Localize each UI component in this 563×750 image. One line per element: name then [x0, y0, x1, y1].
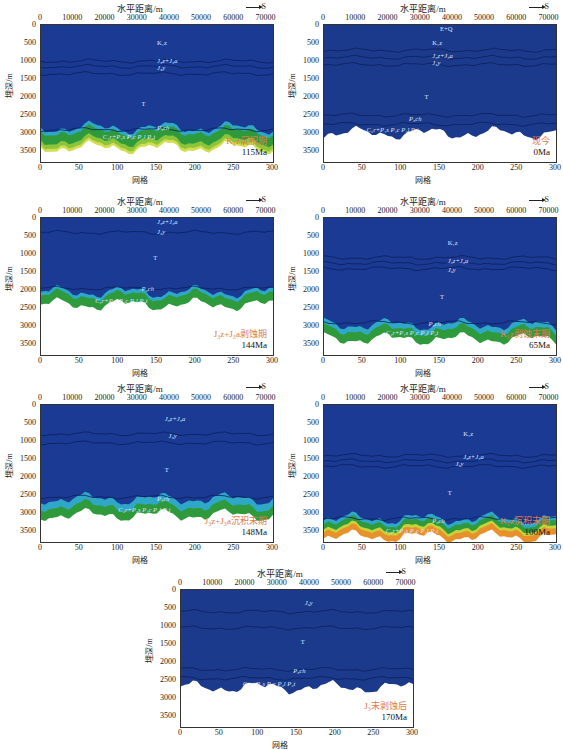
- top-axis-tick: 30000: [127, 13, 147, 22]
- top-axis-tick: 0: [178, 578, 182, 587]
- top-axis-tick: 40000: [442, 13, 462, 22]
- formation-label: J₃y: [448, 266, 456, 273]
- bottom-axis-title: 网格: [283, 174, 563, 185]
- top-axis-tick: 50000: [191, 13, 211, 22]
- bottom-axis-tick: 150: [433, 163, 445, 172]
- chart-panel-p3: 水平距离/m S01000020000300004000050000600007…: [0, 193, 280, 378]
- bottom-axis-tick: 50: [358, 543, 366, 552]
- formation-label: J₃z+J₃a: [448, 257, 468, 264]
- stage-age: 170Ma: [364, 712, 407, 723]
- formation-label: K₁z: [448, 239, 458, 246]
- y-axis-tick: 3500: [0, 146, 36, 155]
- top-axis-tick: 20000: [377, 13, 397, 22]
- formation-label: J₃y: [169, 432, 177, 439]
- formation-label: T: [440, 293, 444, 300]
- formation-label: P₃ch: [142, 285, 154, 292]
- top-axis-tick: 10000: [62, 13, 82, 22]
- y-axis-tick: 3000: [0, 321, 36, 330]
- top-axis-tick: 60000: [506, 393, 526, 402]
- y-axis-tick: 0: [283, 400, 319, 409]
- formation-label: P₃ch: [432, 517, 444, 524]
- top-axis-tick: 0: [38, 393, 42, 402]
- y-axis-tick: 1000: [283, 56, 319, 65]
- top-axis-tick: 70000: [539, 393, 559, 402]
- bottom-axis-tick: 0: [178, 728, 182, 737]
- y-axis-tick: 3500: [283, 146, 319, 155]
- stage-age: 148Ma: [205, 527, 267, 538]
- stage-name: 现今: [532, 136, 550, 147]
- bottom-axis-tick: 300: [406, 728, 418, 737]
- bottom-axis-tick: 200: [472, 543, 484, 552]
- stage-name: K₁z沉积末期: [500, 516, 550, 527]
- y-axis-tick: 3500: [283, 339, 319, 348]
- top-axis-tick: 60000: [363, 578, 383, 587]
- bottom-axis-tick: 150: [290, 728, 302, 737]
- top-axis-tick: 10000: [345, 206, 365, 215]
- direction-arrow-icon: S: [529, 2, 549, 11]
- chart-panel-p1: 水平距离/m S01000020000300004000050000600007…: [0, 0, 280, 185]
- y-axis-title: 埋深/m: [3, 73, 14, 97]
- top-axis-tick: 60000: [223, 393, 243, 402]
- direction-arrow-icon: S: [386, 567, 406, 576]
- stage-label: J₃z+J₃a沉积末期148Ma: [205, 516, 267, 538]
- y-axis-title: 埋深/m: [3, 266, 14, 290]
- top-axis-tick: 50000: [474, 206, 494, 215]
- y-axis-tick: 2500: [0, 303, 36, 312]
- top-axis-tick: 60000: [223, 206, 243, 215]
- y-axis-title: 埋深/m: [143, 638, 154, 662]
- bottom-axis-tick: 50: [75, 356, 83, 365]
- bottom-axis-tick: 0: [321, 163, 325, 172]
- top-axis-tick: 0: [321, 393, 325, 402]
- y-axis-title: 埋深/m: [286, 453, 297, 477]
- bottom-axis-tick: 300: [549, 543, 561, 552]
- stage-age: 144Ma: [214, 340, 267, 351]
- y-axis-tick: 500: [0, 231, 36, 240]
- y-axis-title: 埋深/m: [286, 73, 297, 97]
- formation-label: P₃ch: [157, 495, 169, 502]
- top-axis-tick: 50000: [474, 393, 494, 402]
- top-axis-tick: 20000: [94, 206, 114, 215]
- direction-arrow-icon: S: [529, 382, 549, 391]
- top-axis-tick: 30000: [410, 206, 430, 215]
- formation-label: T: [165, 466, 169, 473]
- formation-label: P₃ch: [428, 320, 440, 327]
- direction-arrow-icon: S: [246, 195, 266, 204]
- bottom-axis-tick: 50: [215, 728, 223, 737]
- top-axis-tick: 20000: [94, 13, 114, 22]
- bottom-axis-title: 网格: [0, 554, 280, 565]
- formation-label: P₃ch: [409, 115, 421, 122]
- y-axis-tick: 1000: [283, 436, 319, 445]
- formation-label: J₃y: [157, 64, 165, 71]
- top-axis-tick: 50000: [474, 13, 494, 22]
- bottom-axis-tick: 100: [394, 163, 406, 172]
- bottom-axis-title: 网格: [140, 739, 420, 750]
- y-axis-tick: 500: [283, 38, 319, 47]
- formation-label: P₃ch: [293, 667, 305, 674]
- formation-label: J₃z+J₃a: [157, 218, 177, 225]
- y-axis-tick: 2500: [140, 675, 176, 684]
- bottom-axis-tick: 200: [472, 356, 484, 365]
- bottom-axis-tick: 100: [111, 543, 123, 552]
- bottom-axis-title: 网格: [283, 367, 563, 378]
- bottom-axis-tick: 250: [227, 543, 239, 552]
- y-axis-tick: 3500: [283, 526, 319, 535]
- top-axis-tick: 20000: [94, 393, 114, 402]
- direction-arrow-icon: S: [529, 195, 549, 204]
- burial-section-plot: K₁zJ₃z+J₃aJ₃yTP₃chC₂r+P₁s P₁c P₂l P₂tK₁z…: [40, 24, 274, 163]
- top-axis-tick: 70000: [539, 13, 559, 22]
- stage-label: K₁z沉积期115Ma: [226, 136, 267, 158]
- top-axis-tick: 70000: [256, 393, 276, 402]
- formation-label: T: [301, 638, 305, 645]
- y-axis-tick: 3000: [0, 508, 36, 517]
- formation-label: T: [142, 100, 146, 107]
- y-axis-tick: 3000: [283, 508, 319, 517]
- top-axis-tick: 50000: [331, 578, 351, 587]
- stage-label: K₁z沉积末期100Ma: [500, 516, 550, 538]
- y-axis-tick: 2500: [283, 490, 319, 499]
- formation-label: C₂r+P₁s P₁c P₂l P₂t: [386, 527, 438, 534]
- bottom-axis-tick: 300: [549, 356, 561, 365]
- formation-label: K₁z: [463, 430, 473, 437]
- top-axis-tick: 30000: [410, 13, 430, 22]
- formation-label: K₁z: [157, 39, 167, 46]
- y-axis-tick: 0: [283, 213, 319, 222]
